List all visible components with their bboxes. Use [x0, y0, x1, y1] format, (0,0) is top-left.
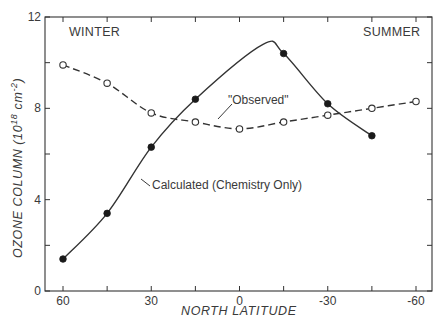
calculated-point — [104, 210, 111, 217]
observed-point — [413, 98, 419, 104]
y-tick-label: 12 — [28, 10, 42, 24]
calculated-curve — [63, 41, 372, 259]
observed-point — [325, 112, 331, 118]
y-axis-title: OZONE COLUMN (1018 cm-2) — [9, 78, 25, 258]
axis-tick-labels: 60300-30-6004812 — [28, 10, 425, 308]
observed-point — [104, 80, 110, 86]
summer-label: SUMMER — [363, 25, 420, 39]
calculated-point — [148, 144, 155, 151]
observed-point — [192, 119, 198, 125]
plot-border — [45, 17, 432, 291]
x-tick-label: -60 — [407, 294, 425, 308]
calculated-point — [324, 100, 331, 107]
x-axis-title: NORTH LATITUDE — [181, 304, 297, 318]
calculated-point — [369, 132, 376, 139]
observed-point — [148, 110, 154, 116]
observed-point — [60, 62, 66, 68]
ozone-latitude-chart: 60300-30-6004812 WINTER SUMMER "Observed… — [0, 0, 441, 327]
x-tick-label: 60 — [56, 294, 70, 308]
calculated-point — [192, 96, 199, 103]
calculated-point — [60, 256, 67, 263]
observed-annotation: "Observed" — [228, 93, 289, 107]
y-tick-label: 0 — [34, 284, 41, 298]
winter-label: WINTER — [69, 25, 120, 39]
y-tick-label: 4 — [34, 193, 41, 207]
x-tick-label: -30 — [319, 294, 337, 308]
calculated-point — [280, 50, 287, 57]
observed-point — [369, 105, 375, 111]
plot-frame — [45, 17, 432, 291]
x-tick-label: 30 — [145, 294, 159, 308]
data-curves — [63, 41, 416, 259]
calculated-leader-line — [141, 179, 150, 186]
axis-ticks — [45, 17, 432, 291]
calculated-annotation: Calculated (Chemistry Only) — [152, 178, 302, 192]
observed-point — [236, 126, 242, 132]
y-tick-label: 8 — [34, 101, 41, 115]
data-markers — [60, 50, 419, 262]
observed-point — [280, 119, 286, 125]
